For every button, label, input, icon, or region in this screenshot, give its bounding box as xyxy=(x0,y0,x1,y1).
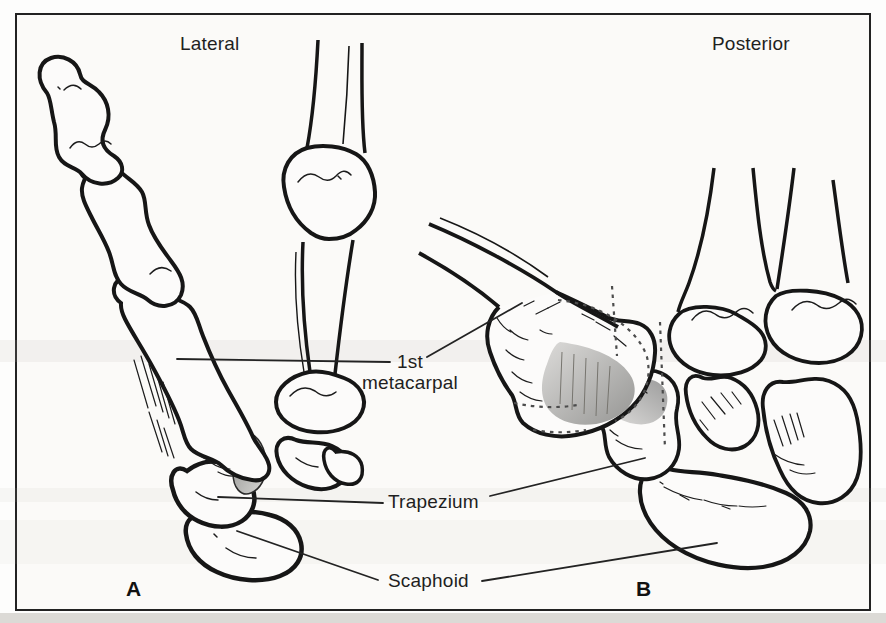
panel-a-view-label: Lateral xyxy=(180,33,240,54)
leader-trapezium-b xyxy=(490,458,645,496)
panel-a-letter: A xyxy=(126,577,141,601)
page-edge-shadow xyxy=(0,613,886,623)
first-metacarpal-lateral xyxy=(114,276,269,480)
scaphoid-label: Scaphoid xyxy=(388,570,469,591)
bone-line-art xyxy=(0,0,886,623)
thumb-distal-phalanx xyxy=(40,57,123,184)
trapezium-label: Trapezium xyxy=(388,491,479,512)
figure-page: Lateral Posterior 1st metacarpal Trapezi… xyxy=(0,0,886,623)
first-metacarpal-label-line1: 1st xyxy=(354,351,466,372)
panel-a-lateral-view xyxy=(40,40,376,580)
carpal-bones-lateral xyxy=(276,438,362,489)
leader-scaphoid-b xyxy=(482,543,717,581)
third-metacarpal-posterior xyxy=(765,168,861,363)
panel-b-posterior-view xyxy=(419,168,862,568)
first-metacarpal-posterior xyxy=(419,218,655,436)
trapezoid-posterior xyxy=(686,376,759,449)
panel-b-view-label: Posterior xyxy=(712,33,790,54)
capitate-posterior xyxy=(763,379,861,503)
first-metacarpal-label-line2: metacarpal xyxy=(354,372,466,393)
second-metacarpal-posterior xyxy=(669,168,776,375)
panel-b-letter: B xyxy=(636,577,651,601)
first-metacarpal-label: 1st metacarpal xyxy=(354,351,466,393)
